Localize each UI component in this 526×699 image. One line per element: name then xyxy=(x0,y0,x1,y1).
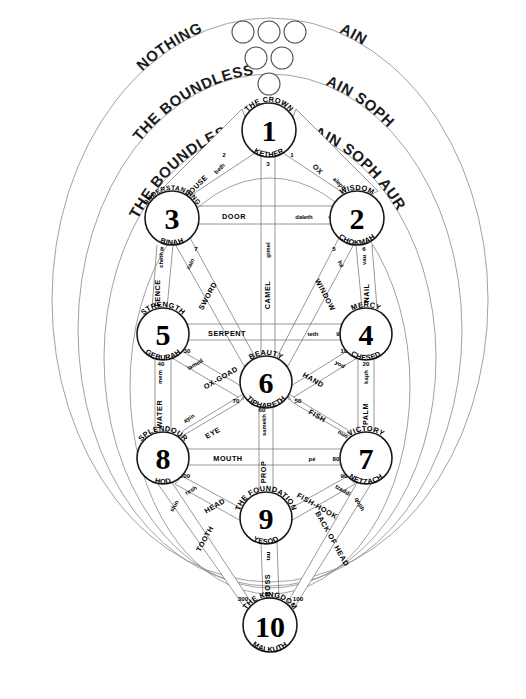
path-pe-letter: pé xyxy=(309,456,317,462)
path-teth-name: SERPENT xyxy=(208,329,246,338)
path-teth-letter: teth xyxy=(308,331,319,337)
path-zain-num: 7 xyxy=(194,245,198,252)
sephirah-yesod-number: 9 xyxy=(259,502,274,535)
veil-circle-row1-a xyxy=(232,21,254,43)
path-tau-letter: tau xyxy=(265,551,271,560)
path-ayin-letter: ayin xyxy=(182,413,196,424)
veil-label-nothing: NOTHING xyxy=(133,19,205,74)
sephirah-kether[interactable]: THE CROWN 1 KETHER xyxy=(242,95,296,159)
path-vau-name: NAIL xyxy=(362,283,371,302)
sephirah-hod-number: 8 xyxy=(156,442,171,475)
sephirah-tiphareth-number: 6 xyxy=(259,366,274,399)
path-mem[interactable]: WATER mem 40 xyxy=(155,360,171,432)
path-ayin-num: 70 xyxy=(233,397,240,404)
path-samekh-name: PROP xyxy=(259,461,268,484)
path-pe-num: 80 xyxy=(333,455,340,462)
path-kaph-letter: kaph xyxy=(363,370,369,384)
path-daleth-name: DOOR xyxy=(222,212,246,221)
sephirah-netzach-number: 7 xyxy=(359,442,374,475)
veil-circles-group xyxy=(232,21,306,95)
path-vau-letter: vau xyxy=(361,255,367,266)
sephirah-chokmah-number: 2 xyxy=(350,202,365,235)
sephirah-hod-name: HOD xyxy=(154,476,172,486)
path-mem-letter: mem xyxy=(157,370,163,384)
path-samekh[interactable]: PROP samekh 60 xyxy=(259,405,273,492)
sephirah-malkuth[interactable]: THE KINGDOM 10 MALKUTH xyxy=(241,590,300,654)
sephirah-yesod[interactable]: THE FOUNDATION 9 YESOD xyxy=(233,484,299,546)
path-gimel-num: 3 xyxy=(266,160,270,167)
path-kaph[interactable]: PALM kaph 20 xyxy=(358,360,374,432)
sephirah-chokmah[interactable]: WISDOM 2 CHOKMAH xyxy=(330,183,384,247)
tree-of-life-canvas: NOTHING THE BOUNDLESS THE BOUNDLESS LIGH… xyxy=(0,0,526,699)
veil-circle-row1-c xyxy=(284,21,306,43)
path-yod[interactable]: HAND yod 10 xyxy=(286,347,357,400)
sephirah-malkuth-number: 10 xyxy=(255,610,285,643)
sephirah-netzach[interactable]: VICTORY 7 NETZACH xyxy=(340,424,392,486)
path-daleth-letter: daleth xyxy=(295,214,313,220)
sephirah-binah-number: 3 xyxy=(165,202,180,235)
path-nun-num: 50 xyxy=(295,397,302,404)
path-kaph-name: PALM xyxy=(361,403,370,425)
path-beth-num: 2 xyxy=(222,151,226,158)
path-ayin-name: EYE xyxy=(204,425,222,441)
path-cheth[interactable]: FENCE cheth 8 xyxy=(152,245,173,308)
path-cheth-num: 8 xyxy=(160,245,164,252)
path-vau[interactable]: NAIL vau 6 xyxy=(356,245,377,308)
path-he-num: 5 xyxy=(332,245,336,252)
path-nun[interactable]: FISH nun 50 xyxy=(287,393,355,440)
path-lamed[interactable]: OX-GOAD lamed 30 xyxy=(172,347,246,400)
sephirah-chesed[interactable]: MERCY 4 CHESED xyxy=(340,300,392,362)
path-mem-name: WATER xyxy=(155,400,164,429)
sephirah-kether-number: 1 xyxy=(262,114,277,147)
veil-circle-row2-b xyxy=(271,47,293,69)
veil-label-ain-soph: AIN SOPH xyxy=(324,72,398,131)
sephirah-geburah[interactable]: STRENGTH 5 GEBURAH xyxy=(137,300,189,362)
path-ayin[interactable]: EYE ayin 70 xyxy=(177,393,245,441)
path-daleth[interactable]: DOOR daleth 4 xyxy=(194,206,336,224)
sephirah-hod[interactable]: SPLENDOUR 8 HOD xyxy=(136,424,190,486)
veil-circle-row2-a xyxy=(245,47,267,69)
path-nun-name: FISH xyxy=(307,407,328,424)
veil-circle-row1-b xyxy=(258,21,280,43)
path-aleph-num: 1 xyxy=(290,151,294,158)
path-gimel-name: CAMEL xyxy=(263,281,272,309)
veil-label-the-boundless-light: THE BOUNDLESS LIGHT xyxy=(0,0,269,221)
path-pe-name: MOUTH xyxy=(213,454,242,463)
veil-label-ain: AIN xyxy=(338,20,371,48)
veil-circle-row3-a xyxy=(258,73,280,95)
path-qoph-num: 100 xyxy=(293,595,304,602)
sephirah-chesed-number: 4 xyxy=(359,318,374,351)
tree-of-life-diagram: NOTHING THE BOUNDLESS THE BOUNDLESS LIGH… xyxy=(0,0,526,699)
path-teth[interactable]: SERPENT teth 9 xyxy=(186,324,344,340)
sephirah-binah[interactable]: UNDERSTANDING 3 BINAH xyxy=(142,184,203,247)
path-gimel[interactable]: CAMEL gimel 3 xyxy=(261,156,275,358)
sephirah-geburah-number: 5 xyxy=(156,318,171,351)
path-cheth-letter: cheth xyxy=(158,252,164,268)
path-gimel-letter: gimel xyxy=(265,242,271,258)
path-samekh-letter: samekh xyxy=(261,414,267,436)
